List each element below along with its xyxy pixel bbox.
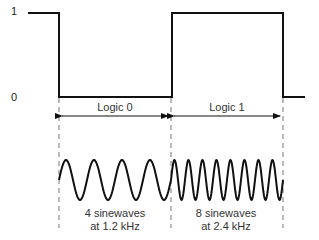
level-low-label: 0 (11, 91, 17, 103)
waveform-drawing (0, 0, 319, 240)
caption-logic1-line2: at 2.4 kHz (191, 220, 261, 233)
caption-logic0: 4 sinewaves at 1.2 kHz (80, 207, 150, 233)
caption-logic1: 8 sinewaves at 2.4 kHz (191, 207, 261, 233)
caption-logic0-line2: at 1.2 kHz (80, 220, 150, 233)
level-high-label: 1 (11, 5, 17, 17)
fsk-diagram: 1 0 Logic 0 Logic 1 4 sinewaves at 1.2 k… (0, 0, 319, 240)
digital-signal (28, 13, 305, 97)
caption-logic1-line1: 8 sinewaves (191, 207, 261, 220)
sinewave-1200hz (59, 160, 171, 200)
logic1-label: Logic 1 (207, 101, 247, 114)
caption-logic0-line1: 4 sinewaves (80, 207, 150, 220)
sinewave-2400hz (171, 160, 283, 200)
logic0-label: Logic 0 (95, 101, 135, 114)
